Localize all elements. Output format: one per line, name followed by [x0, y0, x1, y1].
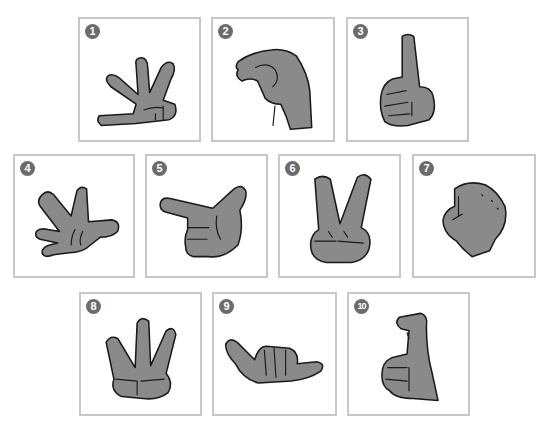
- hand-gesture-9-icon: [214, 294, 335, 414]
- hand-gesture-5-icon: [147, 156, 266, 276]
- hand-gesture-7-icon: [414, 156, 534, 276]
- gesture-panel-3: 3: [346, 17, 469, 142]
- gesture-panel-7: 7: [412, 154, 536, 278]
- gesture-panel-8: 8: [79, 292, 202, 416]
- gesture-panel-5: 5: [145, 154, 268, 278]
- hand-gesture-2-icon: [213, 19, 333, 140]
- gesture-panel-4: 4: [13, 154, 135, 278]
- gesture-panel-2: 2: [211, 17, 335, 142]
- gesture-panel-9: 9: [212, 292, 337, 416]
- hand-gesture-1-icon: [80, 19, 199, 140]
- gesture-panel-1: 1: [78, 17, 201, 142]
- hand-gesture-3-icon: [348, 19, 467, 140]
- hand-gesture-4-icon: [15, 156, 133, 276]
- hand-gesture-6-icon: [280, 156, 399, 276]
- gesture-panel-10: 10: [347, 292, 470, 416]
- hand-gesture-8-icon: [81, 294, 200, 414]
- gesture-panel-6: 6: [278, 154, 401, 278]
- hand-gesture-10-icon: [349, 294, 468, 414]
